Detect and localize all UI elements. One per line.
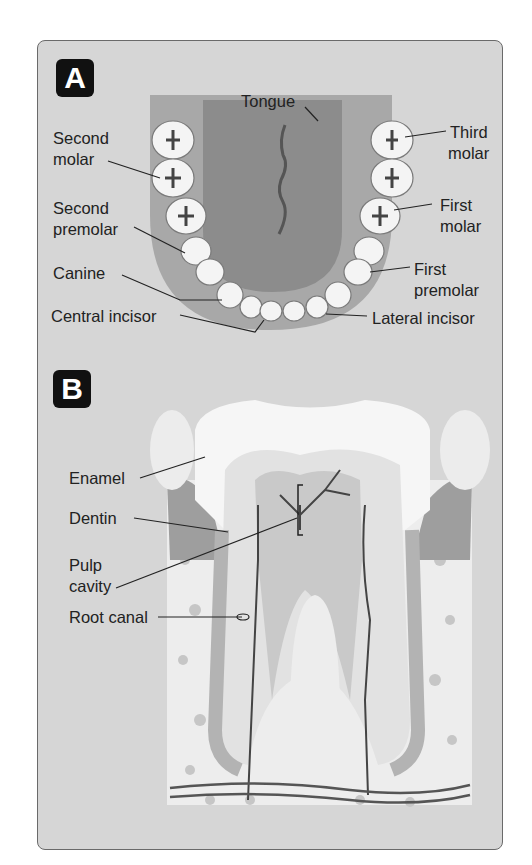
label-enamel: Enamel [69, 468, 125, 488]
label-second-molar-1: Second [53, 128, 109, 148]
tooth-cross-section [116, 400, 490, 807]
jaw-occlusal-view [108, 95, 446, 332]
label-pulp-2: cavity [69, 576, 111, 596]
label-root-canal: Root canal [69, 607, 148, 627]
label-second-premolar-2: premolar [53, 219, 118, 239]
label-tongue: Tongue [241, 91, 295, 111]
label-second-premolar-1: Second [53, 198, 109, 218]
tongue-shape [203, 100, 342, 292]
label-central-incisor: Central incisor [51, 306, 156, 326]
label-third-molar-2: molar [448, 143, 489, 163]
label-canine: Canine [53, 263, 105, 283]
label-first-molar-1: First [440, 195, 472, 215]
label-first-premolar-1: First [414, 259, 446, 279]
label-pulp-1: Pulp [69, 555, 102, 575]
label-third-molar-1: Third [450, 122, 488, 142]
label-lateral-incisor: Lateral incisor [372, 308, 475, 328]
label-first-molar-2: molar [440, 216, 481, 236]
label-dentin: Dentin [69, 508, 117, 528]
panel-b-badge: B [53, 370, 91, 408]
label-second-molar-2: molar [53, 149, 94, 169]
label-first-premolar-2: premolar [414, 280, 479, 300]
panel-a-badge: A [56, 59, 94, 97]
